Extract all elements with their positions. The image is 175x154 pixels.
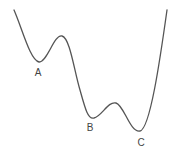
minimum-label-a: A — [35, 67, 42, 78]
energy-landscape-diagram: A B C — [0, 0, 175, 154]
minimum-label-b: B — [87, 122, 94, 133]
minimum-label-c: C — [137, 137, 144, 148]
